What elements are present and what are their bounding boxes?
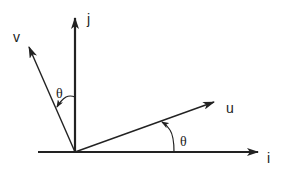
theta-label-iu: θ <box>180 134 187 149</box>
vector-diagram: i j v u θ θ <box>0 0 283 172</box>
theta-label-jv: θ <box>56 86 63 101</box>
i-axis-label: i <box>267 150 270 166</box>
vector-v-label: v <box>13 29 20 45</box>
vector-u <box>75 102 214 152</box>
vector-u-label: u <box>226 100 234 116</box>
vector-v <box>29 47 75 152</box>
j-axis-label: j <box>86 11 90 27</box>
theta-arc-iu <box>162 122 174 152</box>
